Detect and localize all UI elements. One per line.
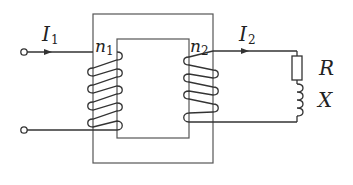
primary-terminal-bottom	[21, 127, 27, 133]
label-n1: n1	[95, 36, 114, 58]
inductor-icon	[297, 84, 303, 116]
label-i2: I2	[238, 22, 256, 47]
label-x: X	[316, 88, 333, 112]
primary-circuit	[21, 49, 122, 133]
secondary-circuit	[184, 48, 303, 122]
label-i1: I1	[41, 22, 59, 47]
core-window	[117, 39, 189, 138]
arrow-i2-icon	[241, 48, 249, 54]
arrow-i1-icon	[44, 49, 52, 55]
resistor-icon	[292, 56, 302, 80]
label-r: R	[318, 56, 334, 80]
transformer-diagram: I1 n1 n2 I2 R X	[0, 0, 353, 185]
primary-terminal-top	[21, 49, 27, 55]
label-n2: n2	[190, 36, 209, 58]
